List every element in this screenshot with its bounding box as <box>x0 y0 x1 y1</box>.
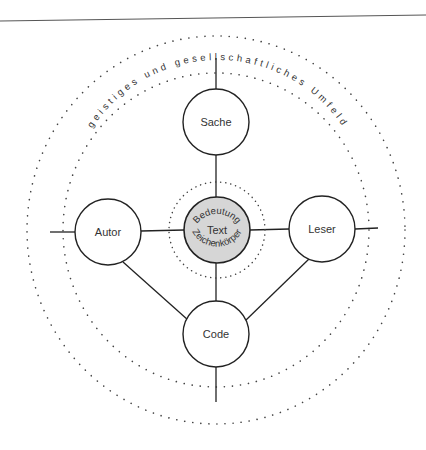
top-rule <box>0 15 426 21</box>
node-autor-label: Autor <box>95 226 122 238</box>
node-leser-label: Leser <box>308 223 336 235</box>
node-leser: Leser <box>289 196 355 262</box>
node-autor: Autor <box>75 199 141 265</box>
leser-code-link <box>246 259 309 320</box>
text-leser-link <box>250 229 289 230</box>
node-text: Text Bedeutung Zeichenkörper <box>184 197 250 263</box>
node-code-label: Code <box>203 328 229 340</box>
node-text-label: Text <box>207 224 227 236</box>
leser-right-stub <box>355 228 378 229</box>
node-sache: Sache <box>183 89 249 155</box>
text-communication-diagram: geistiges und gesellschaftliches Umfeld … <box>0 0 426 450</box>
autor-text-link <box>141 230 184 231</box>
node-code: Code <box>183 301 249 367</box>
node-sache-label: Sache <box>200 116 231 128</box>
autor-code-link <box>123 262 188 320</box>
